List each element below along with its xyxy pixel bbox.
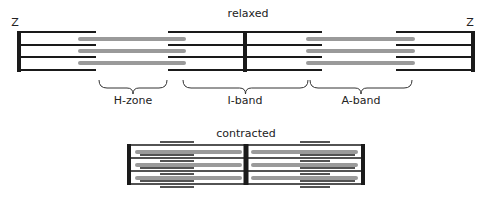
z-line — [244, 144, 249, 185]
z-line — [17, 31, 21, 72]
contracted-title: contracted — [216, 127, 275, 140]
z-line — [243, 31, 247, 72]
band-label-i-band: I-band — [228, 94, 263, 107]
z-line — [361, 144, 365, 185]
contracted-sarcomere — [127, 142, 365, 187]
band-label-h-zone: H-zone — [114, 94, 153, 107]
band-label-a-band: A-band — [342, 94, 381, 107]
relaxed-sarcomere — [17, 31, 475, 72]
relaxed-title: relaxed — [228, 7, 269, 20]
brace-i-band — [183, 80, 308, 94]
brace-a-band — [310, 80, 412, 94]
sarcomere-diagram: H-zoneI-bandA-band relaxed contracted Z … — [0, 0, 487, 201]
band-labels: H-zoneI-bandA-band — [99, 80, 412, 107]
z-line-label-left: Z — [11, 16, 19, 29]
z-line-label-right: Z — [466, 16, 474, 29]
z-line — [127, 144, 131, 185]
z-line — [471, 31, 475, 72]
brace-h-zone — [99, 80, 167, 94]
